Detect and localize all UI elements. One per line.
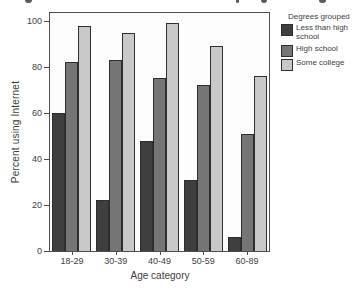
x-tick-mark — [203, 251, 204, 255]
x-tick-mark — [160, 251, 161, 255]
y-tick-label: 60 — [12, 108, 42, 118]
bar-30-39-less-than-high-school — [96, 200, 109, 251]
x-tick-label: 18-29 — [50, 256, 94, 266]
bar-30-39-high-school — [109, 60, 122, 251]
y-tick-mark — [44, 113, 49, 114]
bar-60-89-some-college — [254, 76, 267, 251]
x-tick-mark — [247, 251, 248, 255]
cropped-caption-remnant — [0, 0, 360, 4]
x-tick-label: 50-59 — [181, 256, 225, 266]
legend-item-label: Less than high school — [296, 23, 360, 41]
x-tick-label: 40-49 — [138, 256, 182, 266]
bar-60-89-less-than-high-school — [228, 237, 241, 251]
legend-swatch-some-college — [281, 59, 293, 71]
bar-40-49-some-college — [166, 23, 179, 251]
x-tick-label: 60-89 — [225, 256, 269, 266]
legend-title: Degrees grouped — [288, 12, 350, 21]
y-tick-label: 100 — [12, 16, 42, 26]
bar-60-89-high-school — [241, 134, 254, 251]
bar-40-49-high-school — [153, 78, 166, 251]
bar-50-59-some-college — [210, 46, 223, 251]
y-tick-label: 0 — [12, 246, 42, 256]
bar-50-59-less-than-high-school — [184, 180, 197, 251]
plot-area — [49, 12, 270, 252]
bar-30-39-some-college — [122, 33, 135, 251]
y-tick-mark — [44, 205, 49, 206]
x-tick-mark — [72, 251, 73, 255]
x-tick-label: 30-39 — [94, 256, 138, 266]
y-tick-mark — [44, 21, 49, 22]
x-tick-mark — [116, 251, 117, 255]
bar-18-29-less-than-high-school — [52, 113, 65, 251]
bar-40-49-less-than-high-school — [140, 141, 153, 251]
y-tick-label: 80 — [12, 62, 42, 72]
legend-item-label: High school — [296, 44, 360, 53]
y-tick-mark — [44, 251, 49, 252]
bar-18-29-some-college — [78, 26, 91, 251]
bar-18-29-high-school — [65, 62, 78, 251]
y-tick-label: 20 — [12, 200, 42, 210]
y-tick-mark — [44, 159, 49, 160]
y-tick-mark — [44, 67, 49, 68]
bar-chart-figure: Percent using Internet Age category Degr… — [0, 0, 360, 298]
legend-item-label: Some college — [296, 58, 360, 67]
y-tick-label: 40 — [12, 154, 42, 164]
y-axis-title: Percent using Internet — [10, 81, 21, 183]
legend-swatch-high-school — [281, 45, 293, 57]
x-axis-title: Age category — [110, 270, 210, 281]
legend-swatch-less-than-high-school — [281, 24, 293, 36]
bar-50-59-high-school — [197, 85, 210, 251]
